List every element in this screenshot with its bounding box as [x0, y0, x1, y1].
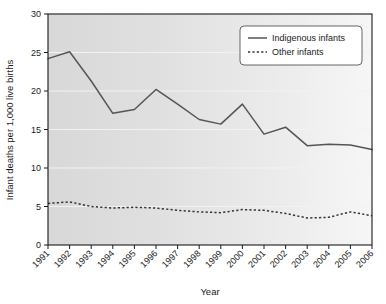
legend-label: Indigenous infants: [272, 33, 346, 43]
y-axis-title: Infant deaths per 1,000 live births: [4, 60, 15, 201]
x-tick-label: 1994: [95, 248, 116, 269]
x-tick-label: 2003: [289, 248, 310, 269]
chart-legend: Indigenous infantsOther infants: [240, 26, 362, 65]
x-tick-label: 1998: [181, 248, 202, 269]
y-tick-label: 5: [36, 202, 41, 212]
y-tick-label: 20: [31, 86, 41, 96]
x-tick-label: 2005: [333, 248, 354, 269]
x-tick-label: 2000: [225, 248, 246, 269]
x-tick-label: 2006: [354, 248, 375, 269]
y-tick-label: 15: [31, 125, 41, 135]
x-tick-label: 1992: [52, 248, 73, 269]
x-axis-title: Year: [200, 286, 219, 297]
x-tick-label: 1997: [160, 248, 181, 269]
legend-box: [240, 26, 362, 65]
y-tick-label: 0: [36, 240, 41, 250]
x-tick-label: 1995: [117, 248, 138, 269]
chart-container: 051015202530 199119921993199419951996199…: [0, 0, 386, 304]
legend-label: Other infants: [272, 47, 324, 57]
x-axis-ticks: 1991199219931994199519961997199819992000…: [30, 245, 375, 270]
x-tick-label: 2001: [246, 248, 267, 269]
y-tick-label: 10: [31, 163, 41, 173]
x-tick-label: 1991: [30, 248, 51, 269]
line-chart: 051015202530 199119921993199419951996199…: [0, 0, 386, 304]
x-tick-label: 2004: [311, 248, 332, 269]
y-tick-label: 25: [31, 48, 41, 58]
x-tick-label: 2002: [268, 248, 289, 269]
x-tick-label: 1993: [73, 248, 94, 269]
y-tick-label: 30: [31, 9, 41, 19]
x-tick-label: 1999: [203, 248, 224, 269]
y-axis-ticks: 051015202530: [31, 9, 48, 250]
x-tick-label: 1996: [138, 248, 159, 269]
